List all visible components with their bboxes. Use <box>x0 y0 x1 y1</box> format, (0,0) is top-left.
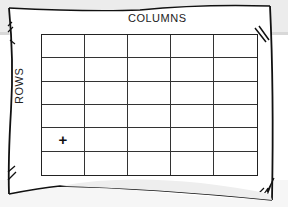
grid-cell <box>85 35 128 58</box>
grid-cell <box>128 105 171 128</box>
columns-label: COLUMNS <box>128 12 187 24</box>
grid-cell <box>171 152 214 175</box>
grid-cell <box>42 105 85 128</box>
grid-cell <box>128 35 171 58</box>
grid-cell <box>171 105 214 128</box>
grid-cell <box>85 58 128 81</box>
grid-cell <box>214 152 257 175</box>
plus-marker-icon: + <box>42 128 84 150</box>
grid-cell <box>171 35 214 58</box>
grid-cell <box>128 152 171 175</box>
grid-cell <box>214 35 257 58</box>
grid-cell <box>42 58 85 81</box>
grid-cell <box>214 82 257 105</box>
grid-cell <box>171 58 214 81</box>
grid-cell: + <box>42 128 85 151</box>
rows-label: ROWS <box>13 68 25 104</box>
grid-cell <box>214 58 257 81</box>
grid-cell <box>171 82 214 105</box>
grid-cell <box>42 152 85 175</box>
grid-cell <box>42 82 85 105</box>
grid-cell <box>85 105 128 128</box>
grid-cell <box>214 105 257 128</box>
grid-cell <box>128 58 171 81</box>
grid-cell <box>128 128 171 151</box>
grid-cell <box>42 35 85 58</box>
grid-cell <box>85 128 128 151</box>
grid-cell <box>214 128 257 151</box>
table-grid: + <box>41 34 258 176</box>
grid-cell <box>85 82 128 105</box>
grid-cell <box>171 128 214 151</box>
grid-cell <box>85 152 128 175</box>
grid-cell <box>128 82 171 105</box>
